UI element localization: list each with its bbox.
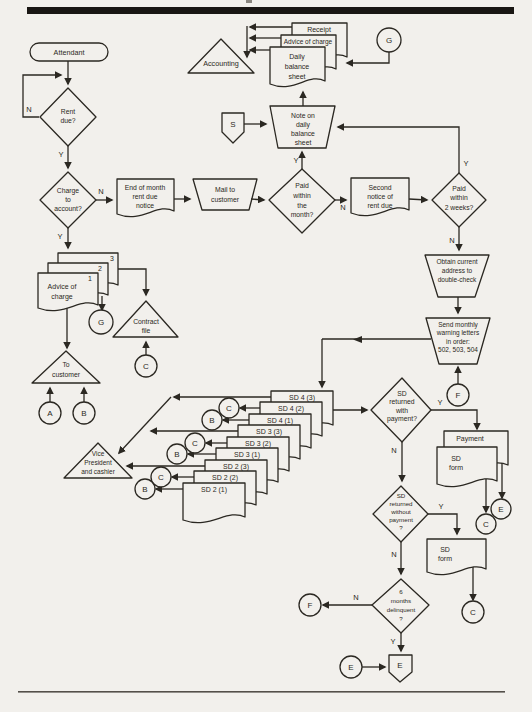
b-sd4-label: B <box>209 416 214 425</box>
connector-b-sd4: B <box>202 410 222 430</box>
sd-with-line3: with <box>395 407 408 414</box>
end-of-month-notice-document: End of month rent due notice <box>117 179 174 217</box>
sd3-1-label: SD 3 (1) <box>234 451 260 459</box>
paid-2wk-line3: 2 weeks? <box>445 204 474 211</box>
note-on-daily-operation: Note on daily balance sheet <box>270 106 335 148</box>
send-line1: Send monthly <box>438 321 478 329</box>
advice-copy3-number: 3 <box>110 255 114 262</box>
payment-sdform-stack: Payment SD form <box>437 431 508 487</box>
rent-collection-flowchart: Attendant Rent due? N Y Charge to accoun… <box>0 0 532 712</box>
send-letters-operation: Send monthly warning letters in order: 5… <box>426 318 490 364</box>
receipt-label: Receipt <box>307 26 331 34</box>
offpage-connector-s: S <box>222 113 244 143</box>
note-daily-line2: daily <box>296 121 311 129</box>
charge-line3: account? <box>54 205 82 212</box>
g-top-label: G <box>386 36 392 45</box>
paid-2wk-line1: Paid <box>452 185 466 192</box>
note-daily-line3: balance <box>291 130 315 137</box>
a-label: A <box>47 409 53 418</box>
connector-c-sdform2: C <box>462 601 484 623</box>
arrow-mail-to-paidmonth <box>251 199 264 200</box>
paid-month-yes-label: Y <box>293 156 298 165</box>
sdform2-document: SD form <box>427 539 486 575</box>
connector-c-sd4: C <box>219 398 239 418</box>
c-sdform2-label: C <box>470 608 476 617</box>
f-top-label: F <box>456 391 461 400</box>
rent-due-yes-label: Y <box>58 150 63 159</box>
to-customer-line1: To <box>62 361 69 368</box>
top-rule <box>27 7 514 14</box>
six-months-line4: ? <box>399 615 403 622</box>
sd2-1-label: SD 2 (1) <box>201 486 227 494</box>
obtain-line3: double-check <box>438 276 477 283</box>
contract-file: Contract file <box>113 301 178 337</box>
connector-g-stack: G <box>89 310 113 334</box>
top-document-stack: Receipt Advice of charge Daily balance s… <box>270 23 347 87</box>
connector-g-top: G <box>377 28 401 52</box>
mail-line2: customer <box>211 196 240 203</box>
connector-f-bottom: F <box>299 594 321 616</box>
sdform1-doc-shape <box>437 447 497 487</box>
send-line3: in order: <box>446 338 470 345</box>
accounting-label: Accounting <box>203 59 239 68</box>
note-daily-line1: Note on <box>291 112 315 119</box>
second-notice-line3: rent due <box>368 202 393 209</box>
arrow-sdwithout-yes <box>428 514 457 534</box>
connector-c-payment: C <box>476 514 496 534</box>
mid-arrowhead-send-to-stack <box>353 336 362 343</box>
advice-top-label: Advice of charge <box>284 38 333 46</box>
f-bottom-label: F <box>308 601 313 610</box>
daily-sheet-line2: balance <box>285 63 310 70</box>
arrow-advice-to-contract <box>118 269 146 295</box>
mail-to-customer-operation: Mail to customer <box>193 179 257 210</box>
sd-with-line4: payment? <box>387 415 417 423</box>
bottom-rule <box>18 691 505 693</box>
flowchart-page: Attendant Rent due? N Y Charge to accoun… <box>0 0 532 712</box>
advice-copy2-number: 2 <box>98 265 102 272</box>
six-months-line1: 6 <box>399 588 403 595</box>
connector-f-top: F <box>447 384 469 406</box>
daily-sheet-line3: sheet <box>288 73 305 80</box>
paid-2wk-line2: within <box>449 194 468 201</box>
note-daily-line4: sheet <box>295 139 312 146</box>
sd-without-yes-label: Y <box>438 502 443 511</box>
mail-line1: Mail to <box>215 186 235 193</box>
b-sd3-label: B <box>174 450 179 459</box>
vp-cashier-file: Vice President and cashier <box>64 443 132 478</box>
paid-month-line4: month? <box>291 211 314 218</box>
c-payment-label: C <box>483 520 489 529</box>
sd2-3-label: SD 2 (3) <box>223 463 249 471</box>
arrow-sdwith-yes <box>431 410 477 429</box>
second-notice-line2: notice of <box>367 193 393 200</box>
sd-with-line1: SD <box>397 390 407 397</box>
eom-line3: notice <box>136 202 154 209</box>
send-line2: warning letters <box>436 329 480 337</box>
sd-with-no-label: N <box>391 446 396 455</box>
second-notice-document: Second notice of rent due <box>351 178 409 216</box>
advice-copy1-number: 1 <box>88 275 92 282</box>
sd-with-yes-label: Y <box>437 398 442 407</box>
vp-line1: Vice <box>92 450 105 457</box>
contract-line2: file <box>142 327 151 334</box>
charge-line2: to <box>65 196 71 203</box>
eom-line1: End of month <box>125 184 166 191</box>
sd-returned-with-payment-decision: SD returned with payment? <box>371 378 431 442</box>
c-contract-label: C <box>143 362 149 371</box>
arrow-2wk-yes-to-note <box>338 127 459 173</box>
sd2-2-label: SD 2 (2) <box>212 474 238 482</box>
sd-returned-without-payment-decision: SD returned without payment ? <box>373 486 428 542</box>
b-customer-label: B <box>81 409 86 418</box>
sd-without-no-label: N <box>391 550 396 559</box>
g-stack-label: G <box>98 318 104 327</box>
charge-no-label: N <box>98 187 103 196</box>
c-sd2-label: C <box>158 473 164 482</box>
attendant-label: Attendant <box>54 48 85 57</box>
c-sd3-label: C <box>192 439 198 448</box>
payment-label: Payment <box>456 435 484 443</box>
advice-copy1-line2: charge <box>51 293 73 301</box>
connector-c-sd3: C <box>185 433 205 453</box>
connector-e-payment: E <box>491 499 511 519</box>
sd-without-line5: ? <box>399 524 403 531</box>
paid-2wk-yes-label: Y <box>463 159 468 168</box>
cropped-header-mark <box>246 0 252 3</box>
